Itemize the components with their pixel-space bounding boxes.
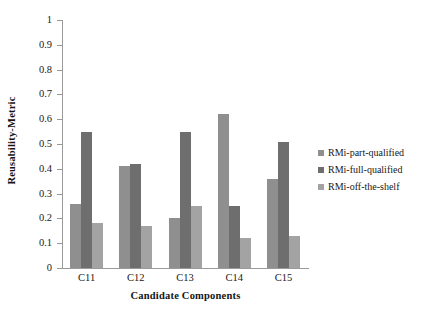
bar: [81, 132, 92, 268]
x-axis-tick-label-c15: C15: [253, 272, 313, 283]
y-axis-tick-label: 0.1: [0, 235, 52, 251]
y-axis-tick-label: 1: [0, 12, 52, 28]
bar: [278, 142, 289, 268]
y-axis-tick-label: 0.7: [0, 86, 52, 102]
bar: [180, 132, 191, 268]
legend-item-2[interactable]: RMi-off-the-shelf: [318, 178, 428, 195]
x-axis-line: [62, 268, 309, 269]
legend-swatch-icon: [318, 150, 324, 156]
y-axis-tick-label: 0.5: [0, 136, 52, 152]
bar-group-c11: [70, 20, 103, 268]
bar: [218, 114, 229, 268]
bar: [229, 206, 240, 268]
legend-item-label: RMi-off-the-shelf: [328, 181, 399, 192]
y-axis-tick-label: 0.2: [0, 210, 52, 226]
bar: [92, 223, 103, 268]
bar: [240, 238, 251, 268]
legend-swatch-icon: [318, 184, 324, 190]
bar: [141, 226, 152, 268]
bar: [289, 236, 300, 268]
plot-area: [62, 20, 308, 268]
y-axis-tick-label: 0.3: [0, 186, 52, 202]
bar-group-c15: [267, 20, 300, 268]
bar: [70, 204, 81, 268]
y-axis-tick-mark: [57, 268, 62, 269]
bar-group-c13: [169, 20, 202, 268]
y-axis-tick-label: 0.9: [0, 37, 52, 53]
bar: [169, 218, 180, 268]
chart-legend: RMi-part-qualifiedRMi-full-qualifiedRMi-…: [318, 144, 428, 195]
y-axis-tick-label: 0: [0, 260, 52, 276]
legend-swatch-icon: [318, 167, 324, 173]
bar: [267, 179, 278, 268]
legend-item-0[interactable]: RMi-part-qualified: [318, 144, 428, 161]
bar: [119, 166, 130, 268]
bar-group-c14: [218, 20, 251, 268]
x-axis-title: Candidate Components: [62, 290, 309, 301]
y-axis-tick-label: 0.4: [0, 161, 52, 177]
bar: [191, 206, 202, 268]
bar: [130, 164, 141, 268]
reusability-metric-bar-chart: Reusability-Metric 00.10.20.30.40.50.60.…: [0, 0, 429, 318]
bar-group-c12: [119, 20, 152, 268]
legend-item-1[interactable]: RMi-full-qualified: [318, 161, 428, 178]
y-axis-tick-label: 0.8: [0, 62, 52, 78]
y-axis-tick-label: 0.6: [0, 111, 52, 127]
legend-item-label: RMi-full-qualified: [328, 164, 402, 175]
legend-item-label: RMi-part-qualified: [328, 147, 404, 158]
